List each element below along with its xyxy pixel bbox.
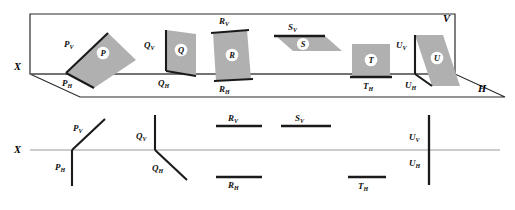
plane-R-v-trace-label: RV	[218, 16, 230, 27]
trace-Q-v-label: QV	[136, 131, 148, 142]
trace-P-h-label: PH	[55, 162, 66, 173]
trace-U-h-label: UH	[409, 158, 421, 169]
axis-label-x-orthographic: X	[13, 144, 22, 155]
plane-Q-v-trace-label: QV	[144, 40, 156, 51]
trace-R-v-label: RV	[227, 113, 239, 124]
plane-U-h-trace-label: UH	[405, 80, 417, 91]
trace-S-v-label: SV	[295, 113, 305, 124]
trace-T-orthographic: TH	[348, 177, 386, 192]
plane-T-h-trace-label: TH	[363, 81, 374, 92]
plane-S-label: S	[301, 39, 306, 49]
trace-R-h-label: RH	[227, 180, 239, 191]
trace-Q-h	[155, 150, 187, 180]
plane-U-label: U	[434, 53, 441, 63]
plane-R-label: R	[228, 50, 235, 60]
orthographic-projection: X PV PH QV QH RV RH SV	[13, 113, 500, 192]
plane-P-pictorial: P PV PH	[62, 33, 136, 89]
horizontal-plane-label: H	[477, 83, 487, 94]
plane-Q-h-trace-label: QH	[158, 78, 170, 89]
plane-Q-label: Q	[178, 45, 184, 55]
trace-P-orthographic: PV PH	[55, 119, 105, 186]
plane-S-pictorial: S SV	[274, 22, 342, 51]
trace-S-orthographic: SV	[281, 113, 331, 126]
plane-U-pictorial: U UV UH	[396, 35, 460, 91]
trace-Q-orthographic: QV QH	[136, 115, 187, 180]
vertical-plane-label: V	[443, 13, 451, 24]
plane-P-h-trace-label: PH	[62, 78, 73, 89]
plane-T-pictorial: T TH	[350, 44, 392, 92]
figure-root: P PV PH Q QV QH R RV RH S SV T TH	[0, 0, 515, 210]
trace-U-v-label: UV	[409, 132, 421, 143]
trace-T-h-label: TH	[358, 181, 369, 192]
trace-Q-h-label: QH	[152, 163, 164, 174]
plane-P-v-trace-label: PV	[64, 39, 75, 50]
plane-R-pictorial: R RV RH	[211, 16, 253, 95]
plane-T-label: T	[368, 55, 374, 65]
plane-U-v-trace-label: UV	[396, 40, 408, 51]
plane-P-label: P	[100, 48, 106, 58]
trace-R-orthographic: RV RH	[216, 113, 262, 191]
plane-Q-pictorial: Q QV QH	[144, 30, 196, 89]
plane-S-v-trace-label: SV	[288, 22, 298, 33]
plane-R-h-trace-label: RH	[218, 84, 230, 95]
axis-label-x-pictorial: X	[13, 61, 22, 72]
trace-P-v-label: PV	[73, 123, 84, 134]
